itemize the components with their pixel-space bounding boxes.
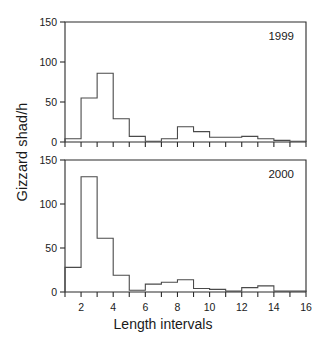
- y-tick-label-2000-50: 50: [45, 242, 57, 254]
- x-tick-label-10: 10: [204, 301, 216, 313]
- x-tick-label-4: 4: [110, 301, 116, 313]
- y-tick-label-2000-150: 150: [39, 154, 57, 166]
- y-tick-label-2000-0: 0: [51, 286, 57, 298]
- histogram-svg: 05010015019990501001502000246810121416: [0, 0, 326, 342]
- x-tick-label-2: 2: [78, 301, 84, 313]
- panel-label-1999: 1999: [268, 30, 294, 42]
- y-tick-label-1999-100: 100: [39, 56, 57, 68]
- x-tick-label-8: 8: [175, 301, 181, 313]
- histogram-outline-2000: [65, 177, 306, 292]
- y-tick-label-1999-50: 50: [45, 96, 57, 108]
- y-tick-label-1999-150: 150: [39, 16, 57, 28]
- y-tick-label-2000-100: 100: [39, 198, 57, 210]
- chart-figure: Gizzard shad/h Length intervals 05010015…: [0, 0, 326, 342]
- y-axis-title: Gizzard shad/h: [14, 72, 30, 232]
- panel-label-2000: 2000: [268, 168, 294, 180]
- x-tick-label-16: 16: [300, 301, 312, 313]
- histogram-outline-1999: [65, 73, 306, 142]
- y-tick-label-1999-0: 0: [51, 136, 57, 148]
- x-tick-label-12: 12: [236, 301, 248, 313]
- x-axis-title: Length intervals: [0, 316, 326, 332]
- x-tick-label-14: 14: [268, 301, 280, 313]
- x-tick-label-6: 6: [142, 301, 148, 313]
